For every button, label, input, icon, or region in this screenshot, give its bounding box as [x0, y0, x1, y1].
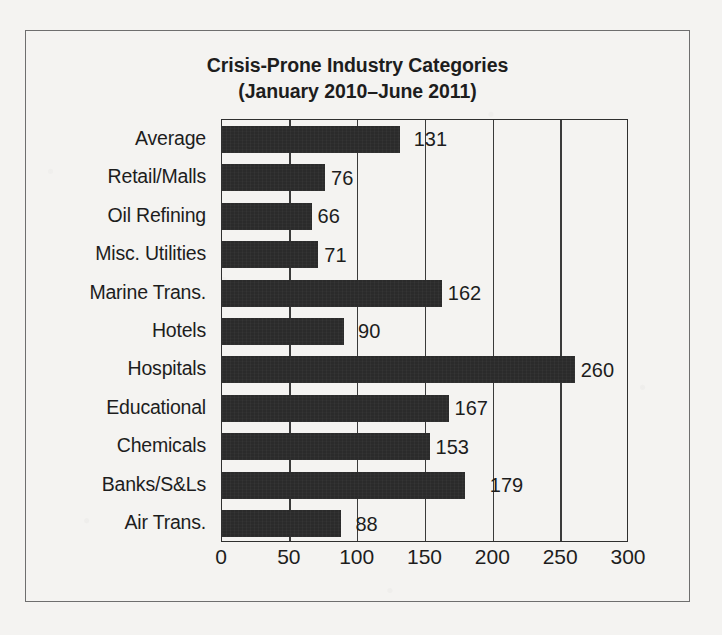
- category-label: Misc. Utilities: [95, 234, 206, 272]
- chart-figure-box: Crisis-Prone Industry Categories (Januar…: [25, 30, 690, 602]
- x-tick-label-300: 300: [610, 546, 645, 567]
- bar[interactable]: [222, 356, 575, 383]
- category-label: Oil Refining: [108, 196, 206, 234]
- bar-row: 131: [222, 120, 627, 158]
- bar[interactable]: [222, 318, 344, 345]
- bar[interactable]: [222, 241, 318, 268]
- bar-value-label: 76: [331, 168, 353, 188]
- x-tick-label-150: 150: [407, 546, 442, 567]
- category-label: Average: [135, 119, 206, 157]
- bar-value-label: 162: [448, 283, 481, 303]
- bar-value-label: 88: [355, 514, 377, 534]
- bar-row: 260: [222, 351, 627, 389]
- bar-row: 167: [222, 389, 627, 427]
- category-label: Hospitals: [128, 350, 206, 388]
- bar-value-label: 71: [324, 245, 346, 265]
- bar-row: 71: [222, 235, 627, 273]
- bar-value-label: 131: [414, 129, 447, 149]
- bar-row: 66: [222, 197, 627, 235]
- category-label: Chemicals: [117, 427, 206, 465]
- category-label: Banks/S&Ls: [102, 465, 206, 503]
- x-tick-label-0: 0: [215, 546, 227, 567]
- x-axis-tick-labels: 050100150200250300: [221, 546, 628, 580]
- bar-value-label: 66: [318, 206, 340, 226]
- chart-title-line-1: Crisis-Prone Industry Categories: [207, 54, 508, 76]
- category-label: Retail/Malls: [108, 157, 206, 195]
- bar-row: 90: [222, 312, 627, 350]
- bar[interactable]: [222, 203, 312, 230]
- category-label: Educational: [106, 388, 206, 426]
- bar-row: 162: [222, 274, 627, 312]
- bar[interactable]: [222, 472, 465, 499]
- category-label: Hotels: [152, 311, 206, 349]
- bar[interactable]: [222, 280, 442, 307]
- category-axis-labels: AverageRetail/MallsOil RefiningMisc. Uti…: [26, 119, 214, 542]
- plot-area: 1317666711629026016715317988: [221, 119, 628, 542]
- bar-row: 179: [222, 466, 627, 504]
- bar-value-label: 90: [358, 321, 380, 341]
- bar-rows: 1317666711629026016715317988: [222, 120, 627, 541]
- chart-title-line-2: (January 2010–June 2011): [26, 78, 689, 104]
- bar[interactable]: [222, 164, 325, 191]
- bar[interactable]: [222, 395, 449, 422]
- x-tick-label-100: 100: [339, 546, 374, 567]
- bar[interactable]: [222, 126, 400, 153]
- category-label: Air Trans.: [125, 504, 206, 542]
- x-tick-label-50: 50: [277, 546, 300, 567]
- bar-value-label: 153: [436, 437, 469, 457]
- bar[interactable]: [222, 510, 341, 537]
- category-label: Marine Trans.: [89, 273, 206, 311]
- bar-value-label: 179: [490, 475, 523, 495]
- bar-row: 88: [222, 505, 627, 543]
- bar[interactable]: [222, 433, 430, 460]
- chart-title: Crisis-Prone Industry Categories (Januar…: [26, 52, 689, 104]
- x-tick-label-250: 250: [543, 546, 578, 567]
- x-tick-label-200: 200: [475, 546, 510, 567]
- bar-row: 153: [222, 428, 627, 466]
- bar-value-label: 167: [455, 398, 488, 418]
- bar-value-label: 260: [581, 360, 614, 380]
- bar-row: 76: [222, 158, 627, 196]
